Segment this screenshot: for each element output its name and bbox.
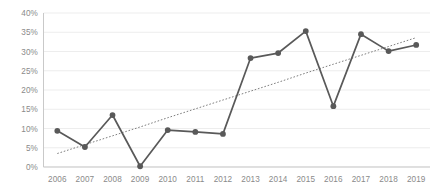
y-axis-tick-label: 10% bbox=[21, 125, 38, 134]
x-axis-tick-label: 2012 bbox=[214, 175, 233, 184]
data-point-marker bbox=[54, 128, 60, 134]
data-point-marker bbox=[220, 131, 226, 137]
x-axis-tick-label: 2015 bbox=[296, 175, 315, 184]
x-axis-tick-label: 2008 bbox=[103, 175, 122, 184]
line-chart: 0%5%10%15%20%25%30%35%40% 20062007200820… bbox=[0, 0, 437, 192]
x-axis-tick-label: 2009 bbox=[131, 175, 150, 184]
data-point-marker bbox=[303, 28, 309, 34]
data-point-marker bbox=[165, 127, 171, 133]
x-axis-tick-label: 2006 bbox=[48, 175, 67, 184]
y-axis-tick-label: 0% bbox=[26, 163, 38, 172]
data-point-marker bbox=[110, 112, 116, 118]
x-axis-tick-label: 2010 bbox=[158, 175, 177, 184]
y-axis-tick-label: 5% bbox=[26, 144, 38, 153]
x-axis-tick-label: 2017 bbox=[352, 175, 371, 184]
x-axis-tick-label: 2011 bbox=[186, 175, 204, 184]
y-axis-tick-label: 30% bbox=[21, 48, 38, 57]
data-point-marker bbox=[358, 31, 364, 37]
x-axis-tick-label: 2014 bbox=[269, 175, 288, 184]
y-axis-tick-label: 40% bbox=[21, 9, 38, 18]
x-axis-tick-label: 2016 bbox=[324, 175, 343, 184]
y-axis-tick-label: 35% bbox=[21, 28, 38, 37]
data-point-marker bbox=[386, 48, 392, 54]
x-axis-tick-label: 2013 bbox=[241, 175, 260, 184]
data-point-marker bbox=[137, 163, 143, 169]
x-axis-tick-label: 2019 bbox=[407, 175, 426, 184]
data-point-marker bbox=[275, 50, 281, 56]
y-axis-tick-labels: 0%5%10%15%20%25%30%35%40% bbox=[21, 9, 38, 172]
data-point-marker bbox=[192, 129, 198, 135]
data-point-marker bbox=[82, 144, 88, 150]
x-axis-tick-labels: 2006200720082009201020112012201320142015… bbox=[48, 175, 426, 184]
y-axis-tick-label: 25% bbox=[21, 67, 38, 76]
gridlines-group bbox=[44, 13, 431, 167]
chart-container: 0%5%10%15%20%25%30%35%40% 20062007200820… bbox=[0, 0, 437, 192]
y-axis-tick-label: 20% bbox=[21, 86, 38, 95]
data-point-marker bbox=[413, 42, 419, 48]
data-point-marker bbox=[248, 55, 254, 61]
data-point-marker bbox=[330, 103, 336, 109]
x-axis-tick-label: 2007 bbox=[76, 175, 95, 184]
x-axis-tick-label: 2018 bbox=[379, 175, 398, 184]
y-axis-tick-label: 15% bbox=[21, 105, 38, 114]
